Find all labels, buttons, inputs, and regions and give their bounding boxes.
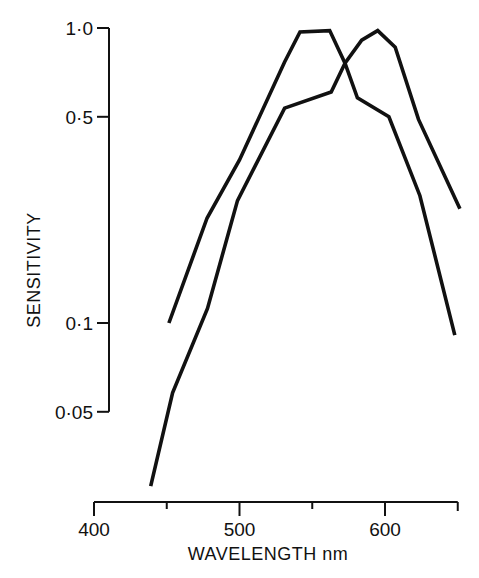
x-axis: 400500600 [78, 502, 458, 540]
x-tick-label: 400 [78, 519, 110, 540]
y-tick-label: 0·05 [55, 402, 93, 423]
curve-peak-595-line [151, 31, 460, 487]
y-tick-label: 0·5 [66, 107, 93, 128]
y-axis: 1·00·50·10·05 [55, 18, 109, 423]
x-tick-label: 600 [369, 519, 401, 540]
sensitivity-chart: 1·00·50·10·05 400500600 SENSITIVITY WAVE… [0, 0, 479, 578]
y-tick-label: 0·1 [66, 313, 93, 334]
y-axis-title: SENSITIVITY [24, 212, 44, 328]
x-axis-title: WAVELENGTH nm [188, 544, 349, 564]
y-tick-label: 1·0 [66, 18, 93, 39]
x-tick-label: 500 [224, 519, 256, 540]
plot-series [151, 31, 460, 487]
